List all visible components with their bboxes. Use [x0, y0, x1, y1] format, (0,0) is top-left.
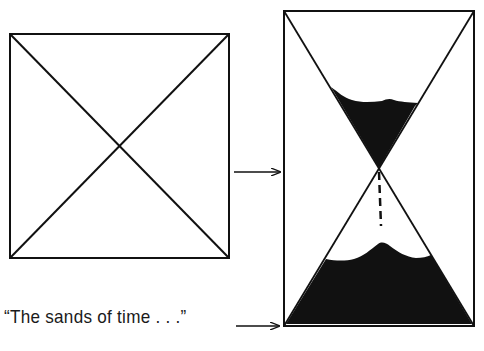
lower-sand: [286, 243, 472, 324]
sands-of-time-diagram: [0, 0, 484, 351]
caption-text: “The sands of time . . .”: [4, 306, 187, 328]
falling-sand-stream: [379, 172, 381, 226]
upper-sand: [331, 87, 418, 168]
hourglass-figure: [284, 11, 474, 326]
square-with-diagonals: [10, 34, 229, 258]
